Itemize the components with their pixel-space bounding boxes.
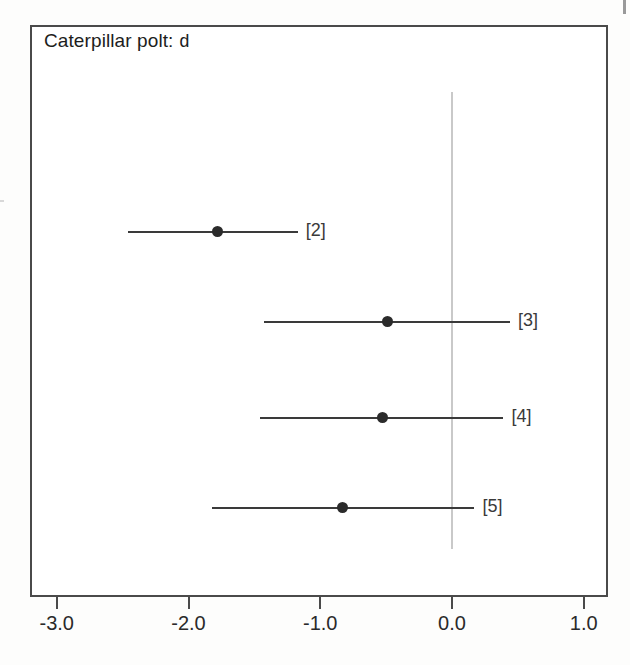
plot-title-suffix: d bbox=[179, 32, 190, 52]
interval-row: [3] bbox=[0, 311, 630, 333]
interval-row: [2] bbox=[0, 221, 630, 243]
interval-label: [4] bbox=[511, 406, 531, 427]
estimate-point bbox=[212, 226, 223, 237]
plot-title-prefix: Caterpillar polt: bbox=[44, 30, 173, 51]
interval-label: [3] bbox=[518, 310, 538, 331]
estimate-point bbox=[377, 412, 388, 423]
page-left-artifact bbox=[0, 200, 4, 202]
x-axis-tick-label: -2.0 bbox=[171, 612, 205, 635]
estimate-point bbox=[337, 502, 348, 513]
x-axis-tick bbox=[56, 597, 58, 609]
estimate-point bbox=[382, 316, 393, 327]
x-axis-tick-label: -3.0 bbox=[40, 612, 74, 635]
interval-row: [4] bbox=[0, 407, 630, 429]
x-axis-tick-label: -1.0 bbox=[303, 612, 337, 635]
page-title: Caterpillar polt: d bbox=[44, 30, 190, 52]
interval-label: [2] bbox=[306, 220, 326, 241]
x-axis-tick-label: 0.0 bbox=[438, 612, 466, 635]
page-edge-artifact bbox=[623, 0, 626, 14]
interval-row: [5] bbox=[0, 497, 630, 519]
x-axis-tick bbox=[583, 597, 585, 609]
x-axis: -3.0-2.0-1.00.01.0 bbox=[0, 597, 630, 665]
x-axis-tick bbox=[188, 597, 190, 609]
x-axis-tick bbox=[451, 597, 453, 609]
x-axis-tick-label: 1.0 bbox=[570, 612, 598, 635]
page-canvas: Caterpillar polt: d [2][3][4][5] -3.0-2.… bbox=[0, 0, 630, 665]
x-axis-tick bbox=[319, 597, 321, 609]
interval-label: [5] bbox=[482, 496, 502, 517]
